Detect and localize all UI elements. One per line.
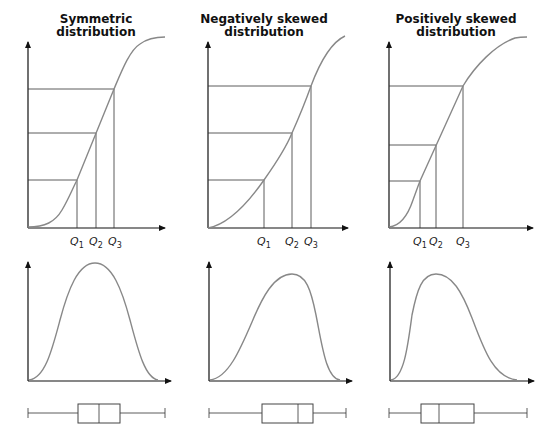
- q3-label: Q3: [304, 235, 318, 250]
- boxplot-positive: [389, 404, 527, 423]
- cumulative-curve: [208, 36, 345, 228]
- boxplot-negative: [209, 404, 346, 423]
- cumulative-curve: [28, 37, 165, 227]
- quartile-guides: [28, 89, 114, 228]
- density-curve: [391, 274, 517, 380]
- q2-label: Q2: [285, 235, 299, 250]
- q3-label: Q3: [456, 235, 470, 250]
- density-symmetric: [28, 262, 171, 381]
- boxplot-symmetric: [28, 404, 165, 423]
- diagram-canvas: Q1 Q2 Q3 Q1 Q2 Q3 Q1 Q2 Q3: [0, 0, 553, 436]
- q2-label: Q2: [429, 235, 443, 250]
- density-curve: [210, 274, 340, 380]
- q1-label: Q1: [257, 235, 271, 250]
- q1-label: Q1: [70, 235, 84, 250]
- quartile-guides: [208, 86, 311, 228]
- q3-label: Q3: [108, 235, 122, 250]
- iqr-box: [262, 404, 313, 423]
- ogive-positive: Q1 Q2 Q3: [389, 37, 533, 250]
- q1-label: Q1: [413, 235, 427, 250]
- quartile-guides: [389, 86, 463, 228]
- cumulative-curve: [389, 37, 527, 227]
- density-positive: [390, 262, 534, 381]
- q2-label: Q2: [89, 235, 103, 250]
- density-negative: [209, 262, 352, 381]
- ogive-negative: Q1 Q2 Q3: [208, 36, 348, 250]
- ogive-symmetric: Q1 Q2 Q3: [28, 37, 165, 250]
- density-curve: [29, 263, 158, 380]
- iqr-box: [421, 404, 474, 423]
